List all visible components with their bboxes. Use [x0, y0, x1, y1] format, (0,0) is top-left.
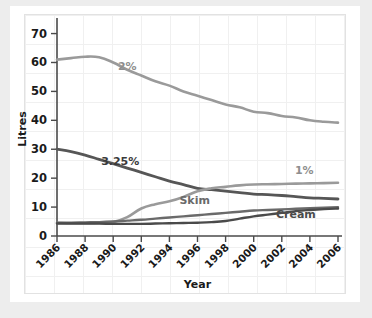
- y-tick-labels: 010203040506070: [31, 27, 47, 243]
- y-tick-label: 0: [39, 229, 47, 243]
- x-tick-label: 1998: [202, 241, 231, 270]
- y-tick-label: 50: [31, 84, 47, 98]
- x-tick-label: 1992: [118, 241, 147, 270]
- y-axis-title: Litres: [16, 111, 29, 147]
- annotation-cream: Cream: [276, 208, 316, 221]
- series-line-2: [57, 56, 338, 122]
- x-tick-labels: 1986198819901992199419961998200020022004…: [33, 241, 343, 270]
- x-tick-label: 2004: [286, 241, 315, 270]
- y-tick-label: 60: [31, 55, 47, 69]
- x-tick-label: 1996: [174, 241, 203, 270]
- chart-screenshot: 010203040506070 198619881990199219941996…: [0, 0, 372, 318]
- annotation-2: 2%: [118, 60, 137, 73]
- y-tick-label: 20: [31, 171, 47, 185]
- x-axis-title: Year: [183, 278, 212, 291]
- annotation-1: 1%: [295, 164, 314, 177]
- x-tick-label: 1990: [89, 241, 118, 270]
- chart-svg-container: 010203040506070 198619881990199219941996…: [0, 0, 372, 318]
- annotation-skim: Skim: [179, 194, 209, 207]
- x-tick-label: 1986: [33, 241, 62, 270]
- x-tick-label: 2000: [230, 241, 259, 270]
- y-tick-label: 30: [31, 142, 47, 156]
- x-tick-label: 1988: [61, 241, 90, 270]
- line-chart: 010203040506070 198619881990199219941996…: [0, 0, 372, 318]
- y-tick-label: 40: [31, 113, 47, 127]
- annotation-325: 3.25%: [101, 155, 139, 168]
- x-tick-label: 2006: [314, 241, 343, 270]
- y-tick-label: 10: [31, 200, 47, 214]
- x-tick-label: 2002: [258, 241, 287, 270]
- x-tick-label: 1994: [146, 241, 175, 270]
- y-tick-label: 70: [31, 27, 47, 41]
